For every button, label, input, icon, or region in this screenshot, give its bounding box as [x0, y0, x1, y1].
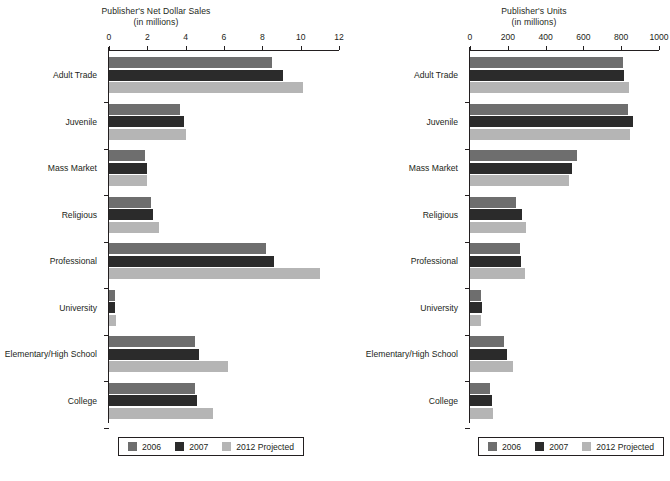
legend-item[interactable]: 2007 — [175, 442, 208, 452]
bar-2007 — [470, 116, 633, 127]
bar-2007 — [109, 349, 199, 360]
x-axis-tick — [147, 46, 148, 50]
category-label-mass-market: Mass Market — [48, 163, 97, 173]
bar-2012-projected — [109, 222, 159, 233]
legend-item[interactable]: 2012 Projected — [582, 442, 654, 452]
legend-right: 200620072012 Projected — [478, 437, 664, 456]
legend-label: 2007 — [189, 442, 208, 452]
x-axis-tick-label: 600 — [576, 32, 590, 42]
legend-label: 2012 Projected — [596, 442, 654, 452]
category-label-mass-market: Mass Market — [409, 163, 458, 173]
legend-label: 2006 — [142, 442, 161, 452]
bar-2006 — [470, 104, 628, 115]
bar-2007 — [109, 209, 153, 220]
x-axis-tick-label: 0 — [107, 32, 112, 42]
bar-2006 — [109, 104, 180, 115]
bar-2012-projected — [109, 268, 320, 279]
bar-2007 — [470, 256, 521, 267]
bar-2007 — [470, 163, 572, 174]
legend-item[interactable]: 2007 — [535, 442, 568, 452]
bar-group — [470, 104, 659, 140]
bar-group — [470, 57, 659, 93]
figure: Publisher's Net Dollar Sales (in million… — [0, 0, 670, 481]
category-label-university: University — [59, 303, 97, 313]
legend-swatch-icon — [488, 442, 497, 451]
bar-group — [109, 104, 339, 140]
legend-label: 2006 — [502, 442, 521, 452]
bar-2006 — [109, 290, 115, 301]
bar-2006 — [470, 243, 520, 254]
x-axis-line-left — [109, 50, 339, 51]
legend-left: 200620072012 Projected — [118, 437, 304, 456]
bar-2012-projected — [470, 129, 630, 140]
bar-group — [470, 150, 659, 186]
bar-2006 — [470, 57, 623, 68]
bar-2012-projected — [109, 361, 228, 372]
bar-2006 — [470, 150, 577, 161]
x-axis-line-right — [470, 50, 659, 51]
x-axis-tick-label: 800 — [614, 32, 628, 42]
x-axis-tick-label: 200 — [501, 32, 515, 42]
category-label-adult-trade: Adult Trade — [53, 70, 97, 80]
legend-swatch-icon — [128, 442, 137, 451]
category-label-juvenile: Juvenile — [65, 117, 97, 127]
bar-2007 — [109, 256, 274, 267]
category-label-adult-trade: Adult Trade — [414, 70, 458, 80]
x-axis-tick — [659, 46, 660, 50]
bar-2012-projected — [109, 175, 147, 186]
bar-2006 — [109, 243, 266, 254]
category-label-college: College — [68, 396, 97, 406]
bar-group — [470, 197, 659, 233]
chart-panel-units: Publisher's Units (in millions) 02004006… — [340, 0, 670, 481]
legend-swatch-icon — [175, 442, 184, 451]
x-axis-tick — [621, 46, 622, 50]
category-label-religious: Religious — [62, 210, 97, 220]
bar-group — [109, 150, 339, 186]
category-label-elementary-high-school: Elementary/High School — [366, 349, 458, 359]
legend-swatch-icon — [222, 442, 231, 451]
x-axis-tick-label: 2 — [145, 32, 150, 42]
bar-2007 — [470, 302, 482, 313]
bar-2006 — [470, 290, 481, 301]
legend-swatch-icon — [582, 442, 591, 451]
legend-item[interactable]: 2006 — [128, 442, 161, 452]
x-axis-tick — [470, 46, 471, 50]
bar-group — [109, 197, 339, 233]
bar-2006 — [109, 197, 151, 208]
category-label-religious: Religious — [423, 210, 458, 220]
bar-2012-projected — [109, 129, 186, 140]
x-axis-tick — [546, 46, 547, 50]
legend-item[interactable]: 2006 — [488, 442, 521, 452]
legend-item[interactable]: 2012 Projected — [222, 442, 294, 452]
bar-2012-projected — [470, 82, 629, 93]
legend-swatch-icon — [535, 442, 544, 451]
bar-group — [109, 243, 339, 279]
category-label-juvenile: Juvenile — [426, 117, 458, 127]
bar-2012-projected — [109, 82, 303, 93]
category-axis-tick — [465, 428, 470, 429]
bar-2007 — [109, 70, 283, 81]
bar-2006 — [470, 383, 490, 394]
bar-2007 — [109, 116, 184, 127]
x-axis-tick — [262, 46, 263, 50]
category-label-elementary-high-school: Elementary/High School — [5, 349, 97, 359]
legend-label: 2012 Projected — [236, 442, 294, 452]
bar-2006 — [470, 336, 504, 347]
category-label-professional: Professional — [50, 256, 97, 266]
x-axis-tick-label: 400 — [538, 32, 552, 42]
bar-2012-projected — [470, 361, 513, 372]
x-axis-tick-label: 8 — [260, 32, 265, 42]
bar-2007 — [470, 349, 507, 360]
bar-2012-projected — [470, 175, 569, 186]
bar-group — [470, 290, 659, 326]
x-axis-tick — [109, 46, 110, 50]
x-axis-tick-label: 10 — [296, 32, 306, 42]
bar-2012-projected — [470, 268, 525, 279]
x-axis-tick-label: 6 — [222, 32, 227, 42]
x-axis-tick-label: 0 — [468, 32, 473, 42]
bar-group — [109, 57, 339, 93]
bar-2007 — [470, 70, 624, 81]
bar-2012-projected — [470, 222, 526, 233]
bar-2012-projected — [470, 408, 493, 419]
bar-2012-projected — [470, 315, 481, 326]
